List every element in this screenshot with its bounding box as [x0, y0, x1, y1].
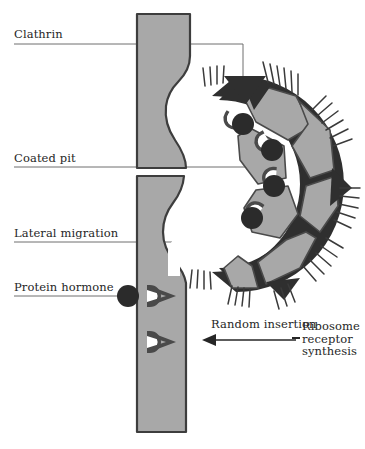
label-clathrin: Clathrin	[14, 28, 63, 41]
label-coated-pit: Coated pit	[14, 152, 76, 165]
label-ribosome-line-1: Ribosome	[302, 320, 364, 333]
free-protein-hormone	[117, 285, 139, 307]
endocytosis-diagram	[0, 0, 365, 449]
label-lateral-migration: Lateral migration	[14, 227, 118, 240]
bound-hormone	[241, 207, 263, 229]
bound-hormone	[232, 113, 254, 135]
label-ribosome-line-3: synthesis	[302, 345, 364, 358]
label-protein-hormone: Protein hormone	[14, 281, 114, 294]
label-random-insertion: Random insertion	[211, 318, 317, 331]
label-ribosome-receptor-synthesis: Ribosome receptor synthesis	[302, 320, 364, 358]
bound-hormone	[261, 139, 283, 161]
bound-hormone	[263, 175, 285, 197]
